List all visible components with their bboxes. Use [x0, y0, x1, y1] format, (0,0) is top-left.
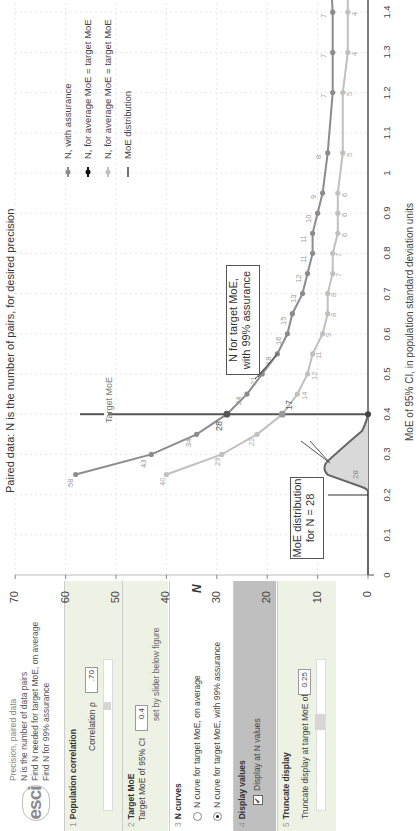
svg-text:5: 5: [345, 92, 354, 96]
x-tick: 1: [381, 158, 392, 188]
svg-text:43: 43: [139, 460, 148, 468]
svg-text:9: 9: [324, 333, 333, 337]
intro-line: Find N for 99% assurance: [41, 622, 52, 781]
intro-line: N is the number of data pairs: [19, 622, 30, 781]
section-title: Display values: [237, 760, 247, 819]
x-tick: 0.3: [381, 439, 392, 469]
truncate-slider[interactable]: [316, 659, 326, 811]
radio-label: N curve for target MoE, on average: [192, 675, 202, 808]
svg-text:9: 9: [309, 195, 318, 199]
checkbox[interactable]: ✔: [253, 795, 263, 805]
y-tick: 0: [361, 591, 373, 615]
intro-text: Precision, paired data N is the number o…: [8, 622, 52, 781]
x-tick: 0.9: [381, 198, 392, 228]
x-tick: 0.2: [381, 480, 392, 510]
x-tick: 0.7: [381, 279, 392, 309]
svg-text:6: 6: [340, 213, 349, 217]
page-title: Precision, paired data: [8, 622, 19, 781]
radio-with-assurance[interactable]: N curve for target MoE, with 99% assuran…: [212, 642, 222, 821]
svg-text:14: 14: [300, 392, 309, 400]
svg-text:13: 13: [289, 295, 298, 303]
svg-text:24: 24: [234, 397, 243, 405]
x-tick: 1.3: [381, 37, 392, 67]
y-tick: 40: [159, 591, 171, 615]
svg-text:5: 5: [345, 153, 354, 157]
target-moe-label: Target MoE of 95% CI: [137, 738, 147, 821]
callout-pointer-distribution: [301, 441, 330, 463]
intro-line: Find N needed for target MoE, on average: [30, 622, 41, 781]
checkbox-label: Display at N values: [252, 718, 262, 791]
svg-text:22: 22: [247, 438, 256, 446]
section-n-curves: 3N curves N curve for target MoE, on ave…: [169, 581, 232, 831]
target-moe-note: set by slider below figure: [151, 627, 161, 721]
correlation-input[interactable]: .70: [85, 667, 98, 693]
radio-on-average[interactable]: N curve for target MoE, on average: [192, 675, 202, 821]
svg-text:12: 12: [310, 372, 319, 380]
x-tick: 0.6: [381, 319, 392, 349]
x-tick: 1.2: [381, 78, 392, 108]
svg-text:4: 4: [350, 12, 359, 16]
correlation-slider[interactable]: [103, 659, 113, 811]
svg-text:8: 8: [329, 313, 338, 317]
svg-text:10: 10: [304, 215, 313, 223]
chart: Paired data: N is the number of pairs, f…: [0, 0, 420, 581]
section-title: Target MoE: [126, 774, 136, 820]
y-tick: 30: [210, 591, 222, 615]
section-number: 5: [281, 822, 291, 827]
svg-text:34: 34: [184, 439, 193, 447]
callout-moe-distribution: MoE distribution for N = 28: [290, 477, 324, 559]
radio-button[interactable]: [213, 812, 222, 821]
y-tick: 20: [260, 591, 272, 615]
series-average-line: [166, 0, 347, 475]
x-axis-label: MoE of 95% CI, in population standard de…: [404, 203, 415, 441]
target-moe-input[interactable]: 0.4: [135, 705, 148, 731]
x-tick: 0.1: [381, 520, 392, 550]
section-target-moe: 2Target MoE Target MoE of 95% CI 0.4 set…: [122, 581, 168, 831]
svg-text:7: 7: [334, 273, 343, 277]
y-axis-ticks: [15, 575, 368, 579]
x-tick: 0.5: [381, 359, 392, 389]
svg-text:11: 11: [314, 351, 323, 359]
svg-text:16: 16: [274, 337, 283, 345]
section-title: Truncate display: [281, 752, 291, 819]
truncate-input[interactable]: 0.25: [298, 669, 311, 695]
svg-text:8: 8: [314, 155, 323, 159]
control-panel: esci Precision, paired data N is the num…: [0, 581, 420, 831]
y-tick: 60: [59, 591, 71, 615]
legend: N, with assurance N, for average MoE = t…: [58, 19, 138, 179]
header: esci Precision, paired data N is the num…: [4, 585, 62, 825]
x-tick: 0.8: [381, 238, 392, 268]
display-values-checkbox[interactable]: ✔Display at N values: [252, 718, 263, 805]
x-tick: 1.4: [381, 0, 392, 27]
svg-text:12: 12: [294, 275, 303, 283]
svg-text:7: 7: [319, 54, 328, 58]
callout-assurance: N for target MoE, with 99% assurance: [226, 265, 260, 375]
svg-text:7: 7: [319, 14, 328, 18]
svg-text:4: 4: [350, 52, 359, 56]
legend-item-moe-distribution[interactable]: MoE distribution: [118, 19, 138, 179]
svg-text:11: 11: [299, 255, 308, 263]
esci-logo: esci: [22, 785, 50, 821]
truncate-label: Truncate display at target MoE of: [300, 694, 310, 819]
legend-item-average-light[interactable]: N, for average MoE = target MoE: [98, 19, 118, 179]
y-tick: 10: [311, 591, 323, 615]
y-tick: 50: [109, 591, 121, 615]
slider-thumb[interactable]: [103, 702, 111, 710]
legend-item-average-dark[interactable]: N, for average MoE = target MoE: [78, 19, 98, 179]
slider-thumb[interactable]: [315, 714, 325, 730]
section-population-correlation: 1Population correlation Correlation ρ .7…: [64, 581, 123, 831]
svg-text:28: 28: [214, 421, 224, 431]
target-moe-label: Target MoE: [104, 377, 114, 423]
x-tick: 0.4: [381, 399, 392, 429]
section-title: N curves: [173, 783, 183, 819]
radio-button[interactable]: [193, 812, 202, 821]
section-display-values: 4Display values ✔Display at N values: [233, 581, 276, 831]
y-axis-label: N: [190, 584, 204, 593]
legend-item-assurance[interactable]: N, with assurance: [58, 19, 78, 179]
section-number: 4: [237, 822, 247, 827]
svg-text:29: 29: [213, 458, 222, 466]
section-number: 2: [126, 822, 136, 827]
radio-label: N curve for target MoE, with 99% assuran…: [212, 642, 222, 808]
x-tick: 1.1: [381, 118, 392, 148]
svg-text:8: 8: [329, 293, 338, 297]
